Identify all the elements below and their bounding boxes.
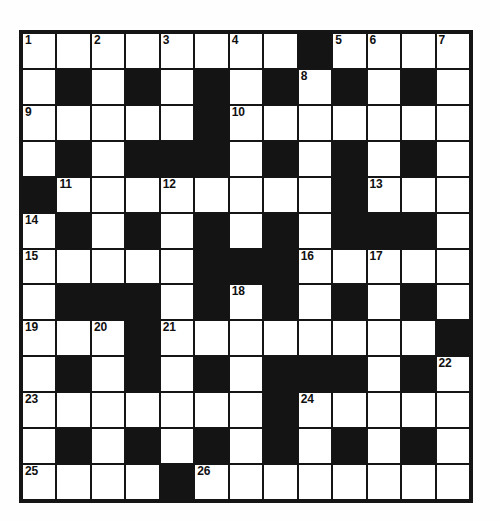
- crossword-open-cell[interactable]: [22, 284, 56, 320]
- crossword-open-cell[interactable]: 16: [298, 249, 332, 285]
- crossword-open-cell[interactable]: 9: [22, 105, 56, 141]
- crossword-open-cell[interactable]: [436, 141, 470, 177]
- crossword-open-cell[interactable]: 4: [229, 33, 263, 69]
- crossword-open-cell[interactable]: [125, 464, 159, 500]
- crossword-open-cell[interactable]: [401, 33, 435, 69]
- crossword-open-cell[interactable]: [436, 105, 470, 141]
- crossword-open-cell[interactable]: [194, 392, 228, 428]
- crossword-open-cell[interactable]: [332, 464, 366, 500]
- crossword-open-cell[interactable]: [332, 249, 366, 285]
- crossword-open-cell[interactable]: [367, 392, 401, 428]
- crossword-open-cell[interactable]: [22, 356, 56, 392]
- crossword-open-cell[interactable]: [125, 392, 159, 428]
- crossword-open-cell[interactable]: [56, 249, 90, 285]
- crossword-open-cell[interactable]: 7: [436, 33, 470, 69]
- crossword-open-cell[interactable]: 22: [436, 356, 470, 392]
- crossword-open-cell[interactable]: [401, 320, 435, 356]
- crossword-open-cell[interactable]: [367, 428, 401, 464]
- crossword-open-cell[interactable]: 1: [22, 33, 56, 69]
- crossword-open-cell[interactable]: [401, 392, 435, 428]
- crossword-open-cell[interactable]: [160, 392, 194, 428]
- crossword-open-cell[interactable]: [91, 177, 125, 213]
- crossword-open-cell[interactable]: [160, 69, 194, 105]
- crossword-open-cell[interactable]: [22, 141, 56, 177]
- crossword-open-cell[interactable]: [160, 249, 194, 285]
- crossword-open-cell[interactable]: [229, 320, 263, 356]
- crossword-open-cell[interactable]: [436, 464, 470, 500]
- crossword-open-cell[interactable]: [263, 105, 297, 141]
- crossword-open-cell[interactable]: 24: [298, 392, 332, 428]
- crossword-open-cell[interactable]: [91, 428, 125, 464]
- crossword-open-cell[interactable]: [436, 392, 470, 428]
- crossword-open-cell[interactable]: [22, 428, 56, 464]
- crossword-open-cell[interactable]: [298, 141, 332, 177]
- crossword-open-cell[interactable]: [125, 249, 159, 285]
- crossword-open-cell[interactable]: [367, 464, 401, 500]
- crossword-open-cell[interactable]: [436, 213, 470, 249]
- crossword-open-cell[interactable]: [436, 69, 470, 105]
- crossword-open-cell[interactable]: [160, 428, 194, 464]
- crossword-open-cell[interactable]: [194, 320, 228, 356]
- crossword-open-cell[interactable]: [332, 105, 366, 141]
- crossword-open-cell[interactable]: 8: [298, 69, 332, 105]
- crossword-open-cell[interactable]: [298, 464, 332, 500]
- crossword-open-cell[interactable]: [298, 320, 332, 356]
- crossword-open-cell[interactable]: 11: [56, 177, 90, 213]
- crossword-open-cell[interactable]: [332, 320, 366, 356]
- crossword-open-cell[interactable]: [229, 464, 263, 500]
- crossword-open-cell[interactable]: 2: [91, 33, 125, 69]
- crossword-open-cell[interactable]: [56, 464, 90, 500]
- crossword-open-cell[interactable]: [263, 320, 297, 356]
- crossword-open-cell[interactable]: 23: [22, 392, 56, 428]
- crossword-open-cell[interactable]: [56, 320, 90, 356]
- crossword-grid[interactable]: 1234567891011121314151617181920212223242…: [19, 30, 473, 503]
- crossword-open-cell[interactable]: [436, 428, 470, 464]
- crossword-open-cell[interactable]: [367, 320, 401, 356]
- crossword-open-cell[interactable]: [367, 284, 401, 320]
- crossword-open-cell[interactable]: 15: [22, 249, 56, 285]
- crossword-open-cell[interactable]: [367, 69, 401, 105]
- crossword-open-cell[interactable]: [436, 284, 470, 320]
- crossword-open-cell[interactable]: 6: [367, 33, 401, 69]
- crossword-open-cell[interactable]: 25: [22, 464, 56, 500]
- crossword-open-cell[interactable]: [56, 105, 90, 141]
- crossword-open-cell[interactable]: [229, 213, 263, 249]
- crossword-open-cell[interactable]: [367, 141, 401, 177]
- crossword-open-cell[interactable]: [91, 69, 125, 105]
- crossword-open-cell[interactable]: [436, 249, 470, 285]
- crossword-open-cell[interactable]: [91, 356, 125, 392]
- crossword-open-cell[interactable]: [91, 105, 125, 141]
- crossword-open-cell[interactable]: 18: [229, 284, 263, 320]
- crossword-open-cell[interactable]: 12: [160, 177, 194, 213]
- crossword-open-cell[interactable]: [229, 392, 263, 428]
- crossword-open-cell[interactable]: [401, 249, 435, 285]
- crossword-open-cell[interactable]: [298, 284, 332, 320]
- crossword-open-cell[interactable]: [91, 249, 125, 285]
- crossword-open-cell[interactable]: 21: [160, 320, 194, 356]
- crossword-open-cell[interactable]: [263, 177, 297, 213]
- crossword-open-cell[interactable]: [125, 105, 159, 141]
- crossword-open-cell[interactable]: [298, 177, 332, 213]
- crossword-open-cell[interactable]: 26: [194, 464, 228, 500]
- crossword-open-cell[interactable]: [160, 213, 194, 249]
- crossword-open-cell[interactable]: [401, 177, 435, 213]
- crossword-open-cell[interactable]: [56, 33, 90, 69]
- crossword-open-cell[interactable]: [229, 428, 263, 464]
- crossword-open-cell[interactable]: [229, 356, 263, 392]
- crossword-open-cell[interactable]: [332, 392, 366, 428]
- crossword-open-cell[interactable]: [401, 105, 435, 141]
- crossword-open-cell[interactable]: [229, 177, 263, 213]
- crossword-open-cell[interactable]: [160, 105, 194, 141]
- crossword-open-cell[interactable]: [298, 213, 332, 249]
- crossword-open-cell[interactable]: [91, 141, 125, 177]
- crossword-open-cell[interactable]: [436, 177, 470, 213]
- crossword-open-cell[interactable]: [160, 356, 194, 392]
- crossword-open-cell[interactable]: 3: [160, 33, 194, 69]
- crossword-open-cell[interactable]: [229, 69, 263, 105]
- crossword-open-cell[interactable]: [22, 69, 56, 105]
- crossword-open-cell[interactable]: 13: [367, 177, 401, 213]
- crossword-open-cell[interactable]: 10: [229, 105, 263, 141]
- crossword-open-cell[interactable]: [56, 392, 90, 428]
- crossword-open-cell[interactable]: [91, 213, 125, 249]
- crossword-open-cell[interactable]: [91, 392, 125, 428]
